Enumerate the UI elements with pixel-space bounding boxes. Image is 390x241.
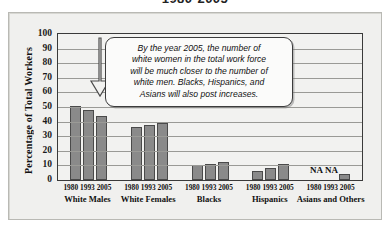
gridline <box>58 136 362 137</box>
bar <box>96 116 107 180</box>
y-axis-tick: 20 <box>43 145 53 155</box>
bar <box>192 165 203 180</box>
gridline <box>58 122 362 123</box>
y-axis-labels: 1009080706050403020100 <box>9 13 55 219</box>
y-axis-tick: 100 <box>38 28 52 38</box>
chart-figure: 1980-2005 Percentage of Total Workers 10… <box>0 0 390 241</box>
y-axis-tick: 60 <box>43 86 53 96</box>
callout-line: By the year 2005, the number of <box>113 43 285 54</box>
x-axis-group-name: Asians and Others <box>292 194 369 204</box>
gridline <box>58 151 362 152</box>
gridline <box>58 107 362 108</box>
chart-panel: Percentage of Total Workers 100908070605… <box>8 12 382 220</box>
x-axis-years: 1980 1993 2005 <box>300 183 361 192</box>
y-axis-tick: 70 <box>43 72 53 82</box>
x-axis-years: 1980 1993 2005 <box>239 183 300 192</box>
bar <box>70 106 81 180</box>
x-axis-year-labels: 1980 1993 20051980 1993 20051980 1993 20… <box>57 183 363 194</box>
y-axis-tick: 90 <box>43 43 53 53</box>
bar <box>144 125 155 180</box>
y-axis-tick: 40 <box>43 116 53 126</box>
x-axis-group-labels: White MalesWhite FemalesBlacksHispanicsA… <box>57 194 363 207</box>
na-marker-1980: NA <box>310 165 323 175</box>
callout-line: will be much closer to the number of <box>113 66 285 77</box>
x-axis-years: 1980 1993 2005 <box>179 183 240 192</box>
y-axis-tick: 30 <box>43 130 53 140</box>
y-axis-tick: 80 <box>43 57 53 67</box>
y-axis-tick: 50 <box>43 101 53 111</box>
bar <box>339 174 350 180</box>
x-axis-years: 1980 1993 2005 <box>118 183 179 192</box>
bar <box>252 171 263 180</box>
bar <box>83 110 94 180</box>
na-marker-1993: NA <box>325 165 338 175</box>
y-axis-tick: 10 <box>43 159 53 169</box>
callout-line: Asians will also post increases. <box>113 89 285 100</box>
bar <box>265 168 276 180</box>
callout-box: By the year 2005, the number ofwhite wom… <box>105 37 293 107</box>
y-axis-tick: 0 <box>47 174 52 184</box>
callout-line: white women in the total work force <box>113 54 285 65</box>
x-axis-years: 1980 1993 2005 <box>57 183 118 192</box>
callout-line: white men. Blacks, Hispanics, and <box>113 77 285 88</box>
chart-title: 1980-2005 <box>0 0 390 6</box>
